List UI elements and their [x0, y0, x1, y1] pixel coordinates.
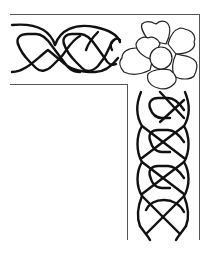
flower-center: [150, 47, 172, 69]
knot-border-artwork: [0, 0, 212, 256]
flower-petal-bottom: [147, 69, 176, 89]
